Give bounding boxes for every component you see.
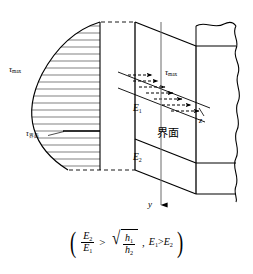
numerator-subscript: 2 bbox=[89, 234, 92, 241]
condition-formula: ( E2 E1 > √ h1 h2 , E1>E2 ) bbox=[0, 228, 253, 256]
square-root-expression: √ h1 h2 bbox=[111, 228, 139, 256]
close-paren: ) bbox=[177, 230, 183, 255]
relation-main: > bbox=[99, 236, 105, 248]
tau-max-subscript: max bbox=[12, 68, 21, 74]
tau-interface-leader bbox=[48, 132, 64, 136]
block-front-top-edge bbox=[135, 22, 196, 46]
y-axis-text: y bbox=[148, 199, 152, 209]
z-axis-tick bbox=[199, 108, 204, 116]
tau-max-face-label: τmax bbox=[165, 68, 177, 78]
modulus-bottom-label: E2 bbox=[133, 153, 142, 164]
secondary-condition: E1>E2 bbox=[149, 236, 173, 248]
stress-distribution-profile bbox=[20, 22, 102, 170]
beam-block bbox=[135, 22, 240, 202]
numerator-subscript: 1 bbox=[130, 237, 133, 244]
condition-right-subscript: 2 bbox=[170, 241, 173, 248]
modulus-subscript: 1 bbox=[139, 108, 142, 114]
modulus-ratio-fraction: E2 E1 bbox=[81, 231, 94, 254]
modulus-top-label: E1 bbox=[133, 104, 142, 115]
fraction-numerator: E2 bbox=[81, 231, 94, 242]
modulus-subscript: 2 bbox=[139, 157, 142, 163]
tau-max-left-label: τmax bbox=[9, 65, 21, 75]
sqrt-sign: √ bbox=[112, 228, 120, 256]
interface-label-cn: 界面 bbox=[157, 128, 179, 139]
denominator-subscript: 2 bbox=[130, 249, 133, 256]
wavy-break-top bbox=[196, 23, 236, 26]
sqrt-radicand: h1 h2 bbox=[121, 229, 138, 256]
formula-separator: , bbox=[142, 236, 145, 248]
denominator-subscript: 1 bbox=[89, 246, 92, 253]
tau-interface-label: τ界面 bbox=[26, 130, 39, 139]
fraction-denominator: h2 bbox=[123, 244, 135, 256]
z-axis-text: z bbox=[199, 116, 202, 125]
formula-row: ( E2 E1 > √ h1 h2 , E1>E2 ) bbox=[68, 228, 185, 256]
fraction-denominator: E1 bbox=[81, 242, 94, 254]
interface-line-front bbox=[135, 139, 196, 163]
block-front-bottom-edge bbox=[135, 170, 196, 194]
open-paren: ( bbox=[70, 230, 76, 255]
figure-root: τmax τ界面 τmax E1 E2 界面 z y ( E2 E1 > √ bbox=[0, 0, 253, 274]
z-axis-label: z bbox=[199, 117, 202, 125]
fraction-numerator: h1 bbox=[123, 233, 135, 244]
tau-interface-subscript: 界面 bbox=[29, 133, 39, 138]
wavy-break-line bbox=[234, 26, 239, 202]
tau-max-subscript: max bbox=[168, 71, 177, 77]
y-axis-label: y bbox=[148, 200, 152, 209]
thickness-ratio-fraction: h1 h2 bbox=[123, 233, 135, 256]
